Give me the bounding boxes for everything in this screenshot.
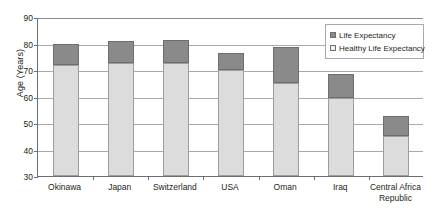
bar-group [148, 18, 203, 176]
bar-segment-life-expectancy[interactable] [218, 53, 244, 70]
bar-segment-life-expectancy[interactable] [163, 40, 189, 63]
y-axis-tick-label: 70 [5, 66, 33, 76]
bar-group [259, 18, 314, 176]
y-axis-tick-label: 90 [5, 13, 33, 23]
legend-item-life-expectancy[interactable]: Life Expectancy [330, 29, 419, 41]
x-axis-tick-label: Central AfricaRepublic [360, 182, 431, 204]
bar-segment-life-expectancy[interactable] [328, 74, 354, 98]
bar-segment-healthy-life-expectancy[interactable] [383, 136, 409, 176]
legend-swatch-icon [330, 32, 336, 38]
x-axis-tick-mark [93, 176, 94, 180]
stacked-bar[interactable] [383, 116, 409, 176]
legend-item-label: Healthy Life Expectancy [339, 44, 425, 53]
bar-segment-healthy-life-expectancy[interactable] [328, 98, 354, 176]
chart-container: Age (Years) 30405060708090 OkinawaJapanS… [0, 0, 434, 218]
stacked-bar[interactable] [218, 53, 244, 176]
y-axis-tick-label: 50 [5, 119, 33, 129]
chart-legend: Life Expectancy Healthy Life Expectancy [325, 24, 424, 59]
stacked-bar[interactable] [328, 74, 354, 176]
bar-segment-healthy-life-expectancy[interactable] [108, 63, 134, 176]
bar-segment-healthy-life-expectancy[interactable] [53, 65, 79, 176]
legend-item-label: Life Expectancy [339, 31, 395, 40]
x-axis-tick-mark [314, 176, 315, 180]
bar-segment-life-expectancy[interactable] [383, 116, 409, 136]
x-axis-tick-label-line: Republic [360, 193, 431, 204]
x-axis-tick-mark [369, 176, 370, 180]
bar-segment-life-expectancy[interactable] [53, 44, 79, 65]
bar-group [38, 18, 93, 176]
bar-segment-healthy-life-expectancy[interactable] [273, 83, 299, 176]
y-axis-tick-label: 60 [5, 93, 33, 103]
bar-segment-healthy-life-expectancy[interactable] [218, 70, 244, 176]
bar-segment-life-expectancy[interactable] [273, 47, 299, 83]
x-axis-tick-label-line: Central Africa [360, 182, 431, 193]
stacked-bar[interactable] [163, 40, 189, 176]
legend-swatch-icon [330, 45, 336, 51]
stacked-bar[interactable] [108, 41, 134, 176]
x-axis-tick-mark [259, 176, 260, 180]
x-axis-tick-mark [203, 176, 204, 180]
y-axis-tick-label: 30 [5, 172, 33, 182]
legend-item-healthy-life-expectancy[interactable]: Healthy Life Expectancy [330, 42, 419, 54]
y-axis-tick-label: 80 [5, 40, 33, 50]
stacked-bar[interactable] [273, 47, 299, 176]
bar-segment-healthy-life-expectancy[interactable] [163, 63, 189, 176]
bar-segment-life-expectancy[interactable] [108, 41, 134, 64]
bar-group [93, 18, 148, 176]
y-axis-tick-label: 40 [5, 146, 33, 156]
x-axis-tick-mark [148, 176, 149, 180]
y-axis-tick-mark [34, 177, 38, 178]
stacked-bar[interactable] [53, 44, 79, 176]
bar-group [203, 18, 258, 176]
